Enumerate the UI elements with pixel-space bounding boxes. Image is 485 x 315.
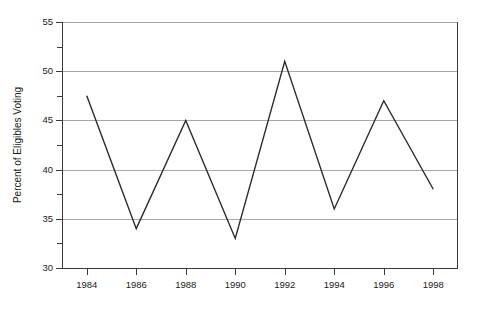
x-axis-label-1984: 1984 (76, 280, 97, 290)
x-axis-label-1994: 1994 (324, 280, 345, 290)
x-axis-label-1986: 1986 (126, 280, 147, 290)
y-axis-label-30: 30 (42, 263, 53, 273)
y-axis-label-45: 45 (42, 116, 53, 126)
x-tick-1984 (87, 269, 88, 275)
y-axis-label-55: 55 (42, 17, 53, 27)
x-tick-1996 (384, 269, 385, 275)
x-tick-1998 (433, 269, 434, 275)
y-axis-label-35: 35 (42, 214, 53, 224)
x-axis-label-1992: 1992 (274, 280, 295, 290)
y-axis-title: Percent of Eligibles Voting (11, 22, 25, 268)
x-tick-1988 (186, 269, 187, 275)
x-tick-1990 (235, 269, 236, 275)
series-polyline (87, 61, 434, 238)
plot-area: 303540455055 198419861988199019921994199… (62, 22, 458, 268)
y-axis-label-40: 40 (42, 165, 53, 175)
x-tick-1992 (285, 269, 286, 275)
y-axis-label-50: 50 (42, 66, 53, 76)
data-series-line (62, 22, 458, 269)
x-tick-1994 (334, 269, 335, 275)
x-tick-1986 (136, 269, 137, 275)
voter-turnout-line-chart: Percent of Eligibles Voting 303540455055… (0, 0, 485, 315)
x-axis-label-1988: 1988 (175, 280, 196, 290)
x-axis-label-1996: 1996 (373, 280, 394, 290)
x-axis-label-1990: 1990 (225, 280, 246, 290)
x-axis-label-1998: 1998 (423, 280, 444, 290)
